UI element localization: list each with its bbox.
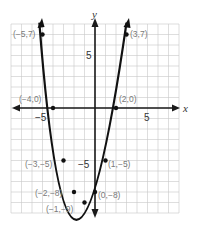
y-axis-label: y <box>91 8 97 20</box>
x-tick-neg5: −5 <box>35 112 47 123</box>
point-2-0 <box>114 106 118 110</box>
point-m5-7 <box>40 32 44 36</box>
y-axis-down-arrow-icon <box>92 209 99 218</box>
label-m5-7: (−5,7) <box>13 29 36 39</box>
label-2-0: (2,0) <box>119 94 137 104</box>
point-m1-m9 <box>82 200 86 204</box>
label-m4-0: (−4,0) <box>19 94 42 104</box>
point-m4-0 <box>51 106 55 110</box>
point-3-7 <box>124 32 128 36</box>
curve-right-arrow-icon <box>124 18 131 28</box>
coordinate-plane: x y −5 5 5 −5 (−5,7) (−4,0) (−3,−5) (−2,… <box>0 0 198 227</box>
point-m3-m5 <box>61 158 65 162</box>
label-1-m5: (1,−5) <box>108 159 131 169</box>
x-tick-pos5: 5 <box>144 112 150 123</box>
y-tick-pos5: 5 <box>86 50 92 61</box>
point-0-m8 <box>93 190 97 194</box>
x-axis-label: x <box>182 102 188 114</box>
label-0-m8: (0,−8) <box>98 190 121 200</box>
label-m2-m8: (−2,−8) <box>35 188 63 198</box>
point-m2-m8 <box>72 190 76 194</box>
label-m1-m9: (−1,−9) <box>46 204 74 214</box>
label-3-7: (3,7) <box>130 29 148 39</box>
y-tick-neg5: −5 <box>78 159 90 170</box>
x-axis-left-arrow-icon <box>12 105 20 112</box>
label-m3-m5: (−3,−5) <box>25 159 53 169</box>
